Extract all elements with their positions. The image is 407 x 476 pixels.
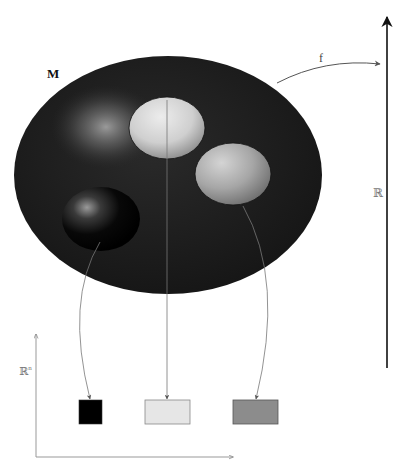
gray-region — [195, 143, 271, 205]
light-box — [145, 400, 190, 424]
manifold-mapping-diagram: f ℝ M ℝn — [0, 0, 407, 476]
map-f-label: f — [319, 51, 323, 65]
map-f-arrow — [277, 63, 380, 83]
black-box — [79, 400, 102, 424]
real-line-label: ℝ — [373, 186, 384, 200]
euclidean-space-label: ℝn — [19, 364, 32, 377]
gray-box — [233, 400, 278, 424]
black-region — [62, 187, 140, 251]
manifold-ellipse — [14, 56, 322, 294]
manifold-label: M — [47, 66, 59, 81]
